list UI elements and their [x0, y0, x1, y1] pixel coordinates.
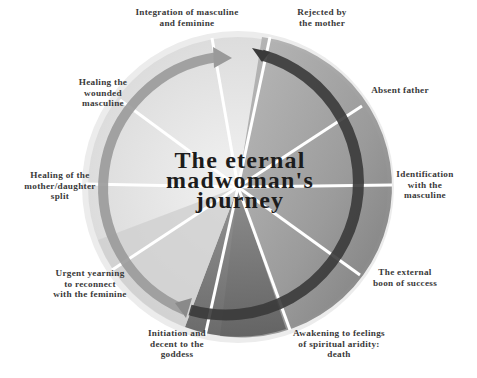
- diagram-title: The eternal madwoman's journey: [160, 150, 320, 210]
- stage-healing-wounded-masculine: Healing the wounded masculine: [68, 77, 138, 109]
- stage-integration: Integration of masculine and feminine: [122, 7, 252, 28]
- stage-initiation-descent: Initiation and decent to the goddess: [136, 328, 218, 360]
- stage-rejected-by-mother: Rejected by the mother: [282, 7, 362, 28]
- stage-healing-mother-daughter: Healing of the mother/daughter split: [10, 170, 110, 202]
- stage-identification-masculine: Identification with the masculine: [385, 169, 465, 201]
- stage-spiritual-aridity: Awakening to feelings of spiritual aridi…: [283, 328, 395, 360]
- stage-absent-father: Absent father: [360, 85, 440, 96]
- stage-external-boon: The external boon of success: [360, 267, 450, 288]
- journey-diagram: The eternal madwoman's journey Integrati…: [0, 0, 477, 378]
- stage-urgent-yearning: Urgent yearning to reconnect with the fe…: [40, 268, 140, 300]
